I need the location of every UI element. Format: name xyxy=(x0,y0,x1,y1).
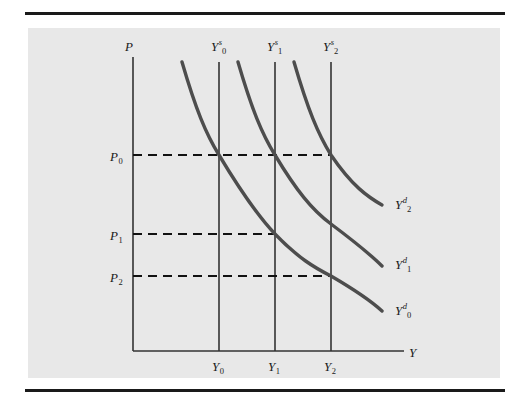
quantity-tick-y0: Y0 xyxy=(212,358,223,374)
supply-label-y0s: Ys0 xyxy=(211,38,226,54)
y-axis-label: P xyxy=(125,38,133,54)
x-axis-label: Y xyxy=(409,344,416,360)
supply-label-y1s: Ys1 xyxy=(267,38,282,54)
demand-curve-y1d xyxy=(238,62,382,266)
quantity-tick-y1: Y1 xyxy=(268,358,279,374)
demand-curves-group xyxy=(182,62,382,311)
supply-demand-chart xyxy=(0,0,529,405)
demand-label-y1d: Yd1 xyxy=(395,256,411,272)
quantity-tick-y2: Y2 xyxy=(324,358,335,374)
demand-label-y0d: Yd0 xyxy=(395,302,411,318)
supply-label-y2s: Ys2 xyxy=(323,38,338,54)
demand-curve-y2d xyxy=(294,62,382,205)
supply-curves-group xyxy=(219,62,331,351)
figure-container: P Y Ys0 Ys1 Ys2 Yd2 Yd1 Yd0 P0 P1 P2 Y0 … xyxy=(0,0,529,405)
price-tick-p2: P2 xyxy=(110,269,122,285)
price-tick-p1: P1 xyxy=(110,227,122,243)
demand-curve-y0d xyxy=(182,62,382,311)
demand-label-y2d: Yd2 xyxy=(395,196,411,212)
chart-axes xyxy=(133,57,404,351)
price-tick-p0: P0 xyxy=(110,148,122,164)
